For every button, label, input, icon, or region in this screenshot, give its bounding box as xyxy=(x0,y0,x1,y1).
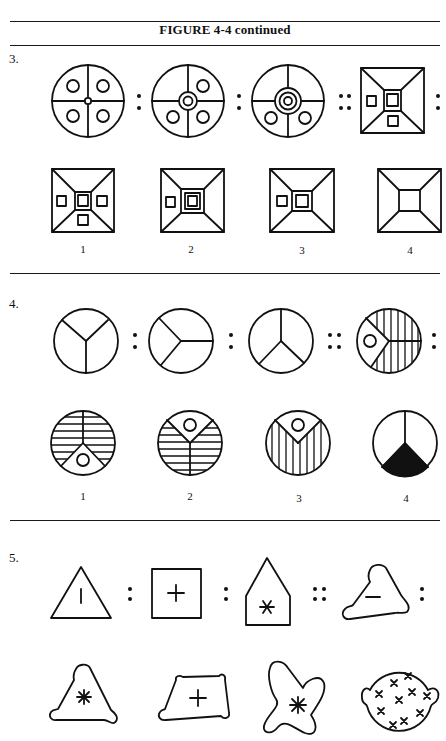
p3-option-4[interactable] xyxy=(378,169,441,232)
p4-stimulus-2 xyxy=(149,309,213,373)
separator-colon xyxy=(224,587,228,601)
p5-stimulus-3 xyxy=(246,558,290,625)
separator-colon xyxy=(432,333,436,349)
p3-option-2[interactable] xyxy=(161,169,224,232)
p4-stimulus-4 xyxy=(357,300,421,380)
p5-stimulus-2 xyxy=(152,569,201,618)
p4-option-3[interactable] xyxy=(266,405,330,480)
p5-option-4[interactable] xyxy=(362,673,439,731)
separator-colon xyxy=(436,94,440,110)
p3-stimulus-2 xyxy=(152,65,224,137)
separator-colon xyxy=(420,587,424,601)
p4-option-2[interactable] xyxy=(155,405,225,475)
p5-stimulus-4 xyxy=(343,565,409,619)
p4-stimulus-1 xyxy=(54,309,118,373)
p4-option-4[interactable] xyxy=(373,411,437,477)
p4-stimulus-3 xyxy=(249,309,313,373)
p5-option-3[interactable] xyxy=(264,662,325,734)
p5-stimulus-1 xyxy=(51,567,111,618)
figure-canvas xyxy=(0,0,446,741)
p3-option-1[interactable] xyxy=(52,169,114,232)
separator-colon xyxy=(229,333,233,349)
p5-option-2[interactable] xyxy=(159,675,229,721)
p3-option-3[interactable] xyxy=(270,169,334,232)
p3-stimulus-1 xyxy=(52,65,124,137)
separator-colon xyxy=(128,587,132,601)
separator-colon xyxy=(137,94,141,110)
p3-stimulus-3 xyxy=(252,65,324,137)
separator-colon xyxy=(237,94,241,110)
separator-double-colon xyxy=(328,333,341,349)
separator-colon xyxy=(133,333,137,349)
p3-stimulus-4 xyxy=(361,68,424,133)
separator-double-colon xyxy=(339,94,351,110)
p5-option-1[interactable] xyxy=(50,665,117,723)
separator-double-colon xyxy=(313,587,326,601)
